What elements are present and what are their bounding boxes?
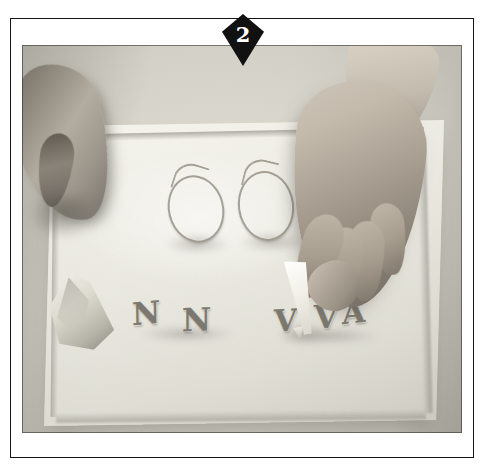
step-number-badge: 2 (222, 14, 264, 66)
piped-letter-n-1: N (132, 294, 161, 333)
left-hand-shadow (30, 195, 110, 255)
piped-letter-n-2: N (182, 300, 211, 339)
page-root: N N V V A 2 (0, 0, 486, 469)
instructional-photo: N N V V A (22, 45, 462, 433)
step-number-label: 2 (222, 24, 264, 45)
